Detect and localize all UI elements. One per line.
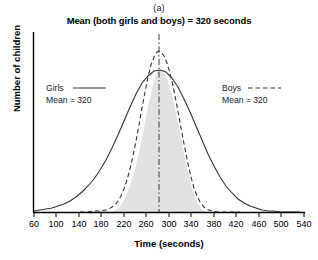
legend-girls: Girls Mean = 320 — [46, 83, 106, 105]
x-tick-label: 500 — [273, 219, 288, 229]
x-tick-label: 300 — [161, 219, 176, 229]
legend-girls-label: Girls — [46, 83, 64, 93]
legend-boys: Boys Mean = 320 — [222, 83, 281, 105]
overlap-shaded-region — [112, 70, 208, 212]
x-tick-label: 460 — [251, 219, 266, 229]
chart-figure: (a) Mean (both girls and boys) = 320 sec… — [0, 0, 318, 260]
legend-girls-mean: Mean = 320 — [46, 95, 92, 105]
x-tick-label: 60 — [29, 219, 39, 229]
x-tick-labels: 60 100 140 180 220 260 300 340 380 420 4… — [29, 219, 312, 229]
x-tick-label: 380 — [206, 219, 221, 229]
legend-boys-label: Boys — [222, 83, 241, 93]
legend-boys-mean: Mean = 320 — [222, 95, 268, 105]
x-tick-label: 260 — [138, 219, 153, 229]
x-tick-label: 540 — [296, 219, 311, 229]
x-tick-label: 100 — [48, 219, 63, 229]
x-tick-label: 220 — [116, 219, 131, 229]
plot-area: 60 100 140 180 220 260 300 340 380 420 4… — [0, 0, 318, 260]
x-tick-label: 340 — [183, 219, 198, 229]
x-tick-label: 420 — [228, 219, 243, 229]
x-tick-label: 180 — [93, 219, 108, 229]
x-tick-label: 140 — [71, 219, 86, 229]
